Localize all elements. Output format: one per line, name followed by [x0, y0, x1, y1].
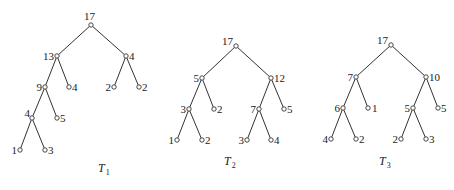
node-weight-label: 2: [217, 103, 223, 115]
tree-node: [43, 85, 47, 89]
tree-node: [411, 106, 415, 110]
tree-node: [89, 23, 93, 27]
tree-node: [282, 107, 286, 111]
node-weight-label: 3: [181, 103, 187, 115]
tree-edge: [248, 111, 258, 138]
tree-node: [257, 107, 261, 111]
node-weight-label: 3: [239, 134, 245, 146]
tree-node: [55, 116, 59, 120]
tree-node: [30, 116, 34, 120]
node-weight-label: 9: [37, 81, 43, 93]
node-weight-label: 3: [48, 144, 54, 156]
tree-edge: [190, 111, 201, 138]
binary-trees-diagram: 1713494224513T1 1751232751234T2 17710615…: [0, 0, 454, 190]
tree-edge: [204, 48, 235, 77]
tree-node: [399, 137, 403, 141]
node-weight-label: 1: [12, 144, 18, 156]
node-weight-label: 4: [72, 81, 78, 93]
tree-node: [424, 137, 428, 141]
tree-edge: [402, 110, 412, 137]
tree-edge: [178, 111, 188, 138]
tree-node: [112, 85, 116, 89]
node-weight-label: 4: [25, 107, 31, 119]
node-weight-label: 10: [429, 71, 441, 83]
node-weight-label: 4: [274, 134, 280, 146]
tree-edge: [344, 110, 355, 137]
node-weight-label: 17: [84, 10, 96, 22]
node-weight-label: 2: [393, 133, 399, 145]
tree-node: [234, 44, 238, 48]
tree-edge: [344, 79, 355, 106]
tree-node: [175, 138, 179, 142]
tree-edge: [58, 58, 68, 85]
tree-node: [269, 138, 273, 142]
node-weight-label: 5: [405, 102, 411, 114]
tree-node: [424, 75, 428, 79]
tree-edge: [260, 80, 270, 107]
tree-edge: [33, 120, 44, 148]
tree-edge: [93, 26, 125, 54]
node-weight-label: 5: [60, 112, 66, 124]
node-weight-label: 5: [194, 72, 200, 84]
tree-caption: T3: [379, 154, 391, 170]
tree-t1: 1713494224513T1: [12, 10, 148, 177]
tree-edge: [33, 89, 44, 116]
tree-node: [329, 137, 333, 141]
node-weight-label: 7: [251, 103, 257, 115]
tree-edge: [260, 111, 270, 138]
tree-caption: T1: [98, 161, 110, 177]
tree-edge: [272, 80, 283, 107]
tree-node: [200, 138, 204, 142]
tree-node: [354, 137, 358, 141]
tree-edge: [115, 58, 125, 85]
node-weight-label: 13: [43, 50, 55, 62]
tree-node: [389, 43, 393, 47]
tree-edge: [393, 46, 425, 75]
node-weight-label: 2: [142, 81, 148, 93]
tree-edge: [21, 120, 31, 148]
tree-node: [200, 76, 204, 80]
tree-edge: [127, 58, 138, 85]
node-weight-label: 2: [205, 134, 211, 146]
node-weight-label: 5: [441, 102, 447, 114]
tree-node: [43, 148, 47, 152]
node-weight-label: 4: [129, 50, 135, 62]
tree-edge: [358, 46, 390, 75]
tree-node: [187, 107, 191, 111]
node-weight-label: 1: [372, 102, 378, 114]
tree-edge: [427, 79, 437, 106]
tree-node: [366, 106, 370, 110]
tree-node: [212, 107, 216, 111]
tree-edge: [46, 89, 56, 116]
node-weight-label: 17: [222, 35, 234, 47]
tree-node: [341, 106, 345, 110]
tree-node: [124, 54, 128, 58]
tree-edge: [357, 79, 367, 106]
tree-node: [354, 75, 358, 79]
tree-node: [269, 76, 273, 80]
tree-node: [436, 106, 440, 110]
node-weight-label: 4: [323, 133, 329, 145]
node-weight-label: 6: [335, 102, 341, 114]
node-weight-label: 1: [169, 134, 175, 146]
node-weight-label: 7: [348, 71, 354, 83]
tree-caption-subscript: 1: [106, 168, 110, 177]
tree-node: [67, 85, 71, 89]
tree-caption-subscript: 3: [387, 161, 391, 170]
tree-edge: [46, 58, 56, 85]
node-weight-label: 2: [106, 81, 112, 93]
tree-edge: [238, 47, 270, 76]
tree-node: [245, 138, 249, 142]
tree-caption: T2: [224, 154, 236, 170]
tree-t3: 1771061554223T3: [323, 34, 448, 170]
tree-caption-subscript: 2: [232, 161, 236, 170]
node-weight-label: 17: [377, 34, 389, 46]
node-weight-label: 2: [359, 133, 365, 145]
tree-node: [55, 54, 59, 58]
tree-node: [137, 85, 141, 89]
node-weight-label: 3: [429, 133, 435, 145]
tree-edge: [190, 80, 201, 107]
node-weight-label: 5: [287, 103, 293, 115]
tree-t2: 1751232751234T2: [169, 35, 294, 170]
tree-edge: [414, 79, 425, 106]
